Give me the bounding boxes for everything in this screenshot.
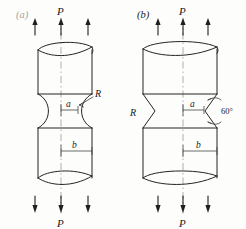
arrowhead-down-left-a	[32, 205, 37, 213]
arrowhead-up-center-a	[58, 18, 63, 25]
force-label-bottom-a: P	[56, 217, 64, 229]
upper-cylinder-a	[38, 42, 93, 94]
angle-leader-b	[208, 98, 221, 125]
load-arrows-bottom-a	[32, 196, 90, 213]
arrowhead-down-center-a	[58, 205, 63, 213]
dimension-label-b-bar: b	[196, 140, 201, 150]
notch-right-a	[82, 94, 93, 128]
lower-cylinder-b	[143, 128, 217, 185]
arrowhead-down-right-a	[85, 205, 90, 213]
load-arrows-top-a	[32, 18, 90, 35]
force-label-top-b: P	[178, 5, 186, 17]
arrowhead-down-right-b	[205, 205, 210, 213]
arrowhead-up-right-b	[205, 18, 210, 25]
top-rim-back-a	[38, 42, 92, 50]
angle-label-b: 60°	[221, 106, 233, 116]
bottom-rim-back-a	[38, 171, 92, 178]
arrowhead-up-left-b	[155, 18, 160, 25]
radius-arrowtail-a	[80, 103, 85, 106]
panel-label-a: (a)	[16, 9, 29, 21]
radius-label-b: R	[129, 107, 136, 118]
notches-b	[143, 94, 217, 128]
dimension-label-a-bar: b	[72, 140, 77, 150]
arrowhead-up-right-a	[85, 18, 90, 25]
lower-cylinder-a	[38, 128, 92, 185]
bottom-rim-front-a	[38, 176, 92, 185]
load-arrows-top-b	[155, 18, 210, 35]
bottom-rim-back-b	[143, 171, 217, 178]
bottom-rim-front-b	[143, 176, 217, 185]
dimension-label-a-throat: a	[66, 99, 71, 109]
panel-b	[143, 18, 221, 214]
top-rim-back-b	[143, 41, 217, 49]
specimen-diagram: (a) (b) P P P P a b a b R R 60°	[0, 0, 246, 229]
figure-canvas: (a) (b) P P P P a b a b R R 60°	[0, 0, 246, 229]
dimension-label-b-throat: a	[190, 99, 195, 109]
radius-label-a: R	[94, 88, 101, 99]
notches-a	[38, 94, 92, 128]
notch-left-vee-b	[143, 94, 155, 128]
panel-label-b: (b)	[137, 9, 150, 21]
force-label-top-a: P	[56, 5, 64, 17]
upper-cylinder-b	[143, 41, 218, 94]
notch-left-a	[38, 94, 49, 128]
load-arrows-bottom-b	[155, 196, 210, 213]
arrowhead-up-center-b	[180, 18, 185, 25]
arrowhead-down-left-b	[155, 205, 160, 213]
arrowhead-down-center-b	[180, 205, 185, 213]
top-rim-front-a	[38, 47, 92, 56]
arrowhead-up-left-a	[32, 18, 37, 25]
top-rim-front-b	[143, 47, 217, 56]
panel-a	[32, 18, 93, 214]
force-label-bottom-b: P	[178, 217, 186, 229]
